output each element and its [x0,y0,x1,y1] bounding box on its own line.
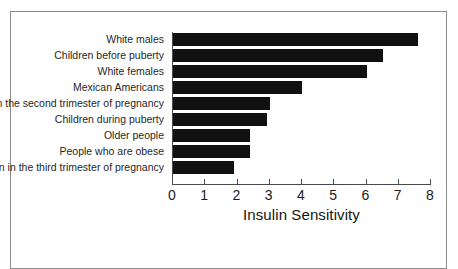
axis-tick-label: 2 [222,187,252,204]
axis-tick [269,179,270,184]
category-label: Children during puberty [55,112,164,126]
category-label: Women in the second trimester of pregnan… [0,96,164,110]
value-axis-baseline [172,184,431,185]
bar [173,161,234,174]
axis-tick-label: 3 [254,187,284,204]
category-row: Older people [0,129,168,145]
category-row: Children during puberty [0,113,168,129]
category-label: Women in the third trimester of pregnanc… [0,160,164,174]
bar [173,49,383,62]
axis-tick [333,179,334,184]
axis-tick [172,179,173,184]
category-row: People who are obese [0,145,168,161]
category-row: Women in the third trimester of pregnanc… [0,161,168,177]
category-row: Children before puberty [0,49,168,65]
bar [173,145,250,158]
bar [173,65,367,78]
axis-tick [366,179,367,184]
category-label: Children before puberty [54,48,164,62]
category-label: White males [106,32,164,46]
bar [173,81,302,94]
value-axis-line [172,32,173,185]
bar [173,113,267,126]
axis-tick [204,179,205,184]
axis-tick-label: 7 [383,187,413,204]
axis-tick-label: 5 [318,187,348,204]
axis-tick-label: 0 [157,187,187,204]
axis-tick-label: 1 [189,187,219,204]
category-row: White males [0,33,168,49]
bar [173,97,270,110]
category-axis-labels: White males Children before puberty Whit… [0,33,168,177]
axis-tick-label: 4 [286,187,316,204]
bar [173,33,418,46]
category-row: Mexican Americans [0,81,168,97]
x-axis-title: Insulin Sensitivity [172,206,431,223]
category-label: Mexican Americans [73,80,164,94]
category-row: White females [0,65,168,81]
axis-tick-label: 8 [415,187,445,204]
category-label: Older people [104,128,164,142]
axis-tick [430,179,431,184]
axis-tick [398,179,399,184]
axis-tick [237,179,238,184]
axis-tick [301,179,302,184]
category-label: White females [97,64,164,78]
category-label: People who are obese [60,144,165,158]
axis-tick-label: 6 [351,187,381,204]
category-row: Women in the second trimester of pregnan… [0,97,168,113]
bar [173,129,250,142]
